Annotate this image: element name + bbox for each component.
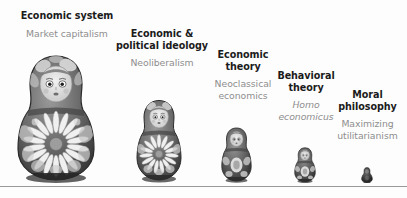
matryoshka-doll-2-large <box>136 99 182 183</box>
label-group-moral-philosophy: Moral philosophy Maximizing utilitariani… <box>328 89 407 141</box>
matryoshka-nesting-figure: Economic system Market capitalism Econom… <box>0 0 407 198</box>
label-title-economic-political-ideology: Economic & political ideology <box>110 28 214 51</box>
matryoshka-doll-4-small <box>294 147 316 183</box>
label-title-moral-philosophy: Moral philosophy <box>328 89 407 112</box>
matryoshka-doll-1-largest <box>16 54 96 183</box>
label-group-economic-political-ideology: Economic & political ideology Neoliberal… <box>110 28 214 69</box>
label-title-economic-theory: Economic theory <box>200 49 286 72</box>
label-title-economic-system: Economic system <box>2 10 132 22</box>
label-subtitle-neoliberalism: Neoliberalism <box>110 57 214 68</box>
matryoshka-doll-5-smallest <box>361 167 373 183</box>
label-subtitle-maximizing-utilitarianism: Maximizing utilitarianism <box>328 118 407 141</box>
matryoshka-doll-3-medium <box>221 127 252 183</box>
ground-baseline <box>0 186 407 187</box>
